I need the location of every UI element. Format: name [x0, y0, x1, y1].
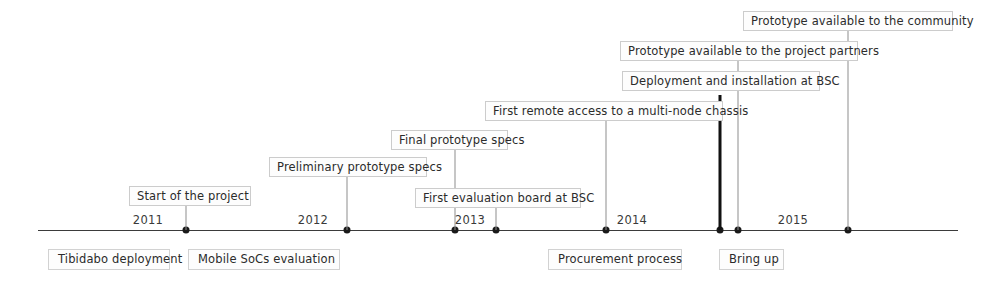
event-label-box: Preliminary prototype specs: [269, 157, 427, 177]
event-label-box: First evaluation board at BSC: [415, 188, 581, 208]
phase-label-box: Bring up: [719, 249, 784, 270]
phase-label-box: Mobile SoCs evaluation: [188, 249, 340, 270]
event-label-box: First remote access to a multi-node chas…: [485, 101, 723, 121]
event-label-box: Prototype available to the project partn…: [620, 41, 858, 61]
event-connector-line: [347, 177, 348, 230]
event-connector-line: [738, 61, 739, 71]
year-label-2011: 2011: [133, 213, 163, 227]
event-label-box: Final prototype specs: [391, 130, 508, 150]
event-connector-line: [606, 121, 607, 230]
phase-label-box: Tibidabo deployment: [48, 249, 170, 270]
year-label-2014: 2014: [617, 213, 647, 227]
year-label-2012: 2012: [298, 213, 328, 227]
year-label-2015: 2015: [778, 213, 808, 227]
event-connector-line: [496, 208, 497, 230]
event-label-box: Deployment and installation at BSC: [622, 71, 820, 91]
event-label-box: Start of the project: [129, 186, 251, 206]
phase-label-box: Procurement process: [548, 249, 682, 270]
event-label-box: Prototype available to the community: [743, 11, 953, 31]
project-timeline-figure: 20112012201320142015 Start of the projec…: [0, 0, 983, 288]
year-label-2013: 2013: [455, 213, 485, 227]
event-connector-line: [186, 206, 187, 230]
